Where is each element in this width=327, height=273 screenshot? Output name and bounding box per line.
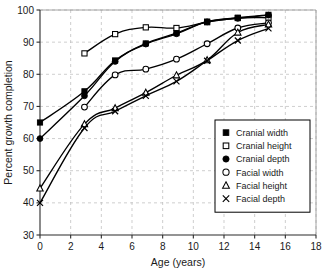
y-tick-label: 40 xyxy=(23,197,35,208)
x-tick-label: 2 xyxy=(68,241,74,252)
chart-canvas: 30405060708090100024681012141618 Cranial… xyxy=(0,0,327,273)
data-point-3-1 xyxy=(112,72,118,78)
chart-legend[interactable]: Cranial widthCranial heightCranial depth… xyxy=(215,120,310,212)
data-point-1-1 xyxy=(113,32,118,37)
data-point-1-2 xyxy=(143,25,148,30)
y-tick-label: 80 xyxy=(23,69,35,80)
y-tick-label: 70 xyxy=(23,101,35,112)
growth-completion-chart: 30405060708090100024681012141618 Cranial… xyxy=(0,0,327,273)
data-point-1-3 xyxy=(174,25,179,30)
legend-label: Facial width xyxy=(236,168,284,178)
y-tick-label: 90 xyxy=(23,37,35,48)
data-point-2-1 xyxy=(82,93,88,99)
data-point-3-0 xyxy=(82,104,88,110)
legend-label: Cranial depth xyxy=(236,154,290,164)
data-point-2-2 xyxy=(112,59,118,65)
y-tick-label: 100 xyxy=(17,5,34,16)
legend-label: Facial height xyxy=(236,181,288,191)
x-tick-label: 10 xyxy=(188,241,200,252)
data-point-2-3 xyxy=(143,41,149,47)
legend-label: Cranial height xyxy=(236,141,292,151)
data-point-3-4 xyxy=(204,41,210,47)
y-tick-label: 50 xyxy=(23,165,35,176)
y-axis-title: Percent growth completion xyxy=(2,60,14,184)
y-tick-label: 30 xyxy=(23,230,35,241)
data-point-legend-1 xyxy=(223,143,229,149)
x-tick-label: 4 xyxy=(99,241,105,252)
data-point-3-3 xyxy=(174,56,180,62)
x-tick-label: 0 xyxy=(37,241,43,252)
x-tick-label: 18 xyxy=(310,241,322,252)
data-point-2-4 xyxy=(174,31,180,37)
data-point-2-6 xyxy=(235,15,241,21)
x-axis-title: Age (years) xyxy=(151,256,205,268)
x-tick-label: 8 xyxy=(160,241,166,252)
x-tick-label: 16 xyxy=(280,241,292,252)
x-tick-label: 6 xyxy=(129,241,135,252)
data-point-legend-2 xyxy=(223,156,229,162)
x-tick-label: 14 xyxy=(249,241,261,252)
data-point-legend-0 xyxy=(223,130,229,136)
data-point-2-7 xyxy=(266,12,272,18)
data-point-2-5 xyxy=(204,19,210,25)
data-point-1-0 xyxy=(82,51,87,56)
y-tick-label: 60 xyxy=(23,133,35,144)
legend-label: Facial depth xyxy=(236,194,285,204)
data-point-0-0 xyxy=(37,120,42,125)
data-point-3-2 xyxy=(143,66,149,72)
data-point-legend-3 xyxy=(223,169,229,175)
legend-label: Cranial width xyxy=(236,128,288,138)
data-point-2-0 xyxy=(37,136,43,142)
x-tick-label: 12 xyxy=(218,241,230,252)
